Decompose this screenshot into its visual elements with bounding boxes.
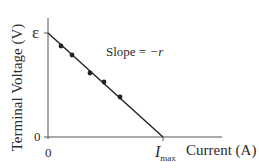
data-point xyxy=(88,71,93,76)
y-zero-label: 0 xyxy=(34,130,41,143)
imax-label: Imax xyxy=(155,144,176,160)
slope-value: −r xyxy=(149,44,163,59)
x-zero-label: 0 xyxy=(45,146,52,159)
emf-label: ε xyxy=(32,24,39,41)
data-point xyxy=(102,80,107,85)
imax-sub: max xyxy=(160,153,176,163)
x-axis-label: Current (A) xyxy=(186,143,256,158)
slope-text: Slope = xyxy=(106,44,149,59)
data-point xyxy=(59,44,64,49)
data-point xyxy=(70,53,75,58)
y-axis-label: Terminal Voltage (V) xyxy=(10,13,25,163)
slope-annotation: Slope = −r xyxy=(106,45,163,58)
data-point xyxy=(118,95,123,100)
